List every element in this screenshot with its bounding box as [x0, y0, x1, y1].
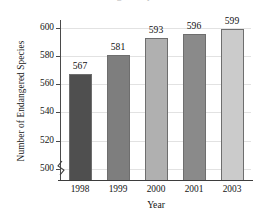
y-tick-mark: [56, 84, 61, 85]
x-axis-title: Year: [61, 199, 251, 210]
bar-value-label: 599: [214, 16, 250, 26]
bar: [221, 29, 244, 180]
x-tick-label: 2001: [175, 184, 213, 195]
bar-value-label: 567: [62, 61, 98, 71]
y-tick-label: 600: [24, 23, 54, 32]
bar: [69, 74, 92, 180]
x-axis-line: [58, 180, 253, 181]
bar: [145, 38, 168, 180]
y-tick-mark: [56, 112, 61, 113]
y-tick-label: 560: [24, 79, 54, 88]
bar-value-label: 581: [100, 42, 136, 52]
x-tick-label: 2000: [137, 184, 175, 195]
y-tick-label: 540: [24, 107, 54, 116]
bar-chart-figure: Endangered Species Number of Endangered …: [0, 0, 263, 224]
y-tick-label: 500: [24, 164, 54, 173]
y-tick-mark: [56, 169, 61, 170]
bars-layer: 567581593596599: [61, 21, 251, 180]
y-axis-tick-labels: 500520540560580600: [21, 0, 54, 224]
x-tick-label: 1998: [61, 184, 99, 195]
x-tick-label: 1999: [99, 184, 137, 195]
y-tick-label: 580: [24, 51, 54, 60]
y-tick-mark: [56, 141, 61, 142]
y-tick-label: 520: [24, 136, 54, 145]
x-axis-tick-labels: 19981999200020012003: [61, 184, 251, 198]
y-tick-mark: [56, 56, 61, 57]
x-tick-label: 2003: [213, 184, 251, 195]
bar: [183, 34, 206, 180]
bar-value-label: 593: [138, 25, 174, 35]
y-tick-mark: [56, 28, 61, 29]
bar-value-label: 596: [176, 21, 212, 31]
bar: [107, 55, 130, 180]
